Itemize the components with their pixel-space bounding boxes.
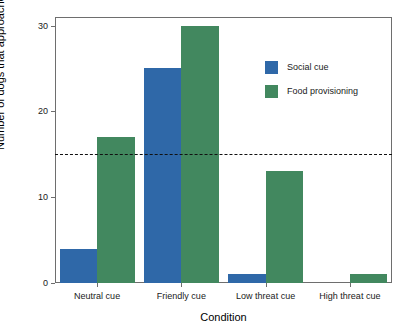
x-tick-mark (97, 283, 98, 287)
x-tick-mark (266, 283, 267, 287)
bar (144, 68, 181, 283)
legend-swatch-icon (265, 61, 278, 74)
y-tick-mark (51, 26, 55, 27)
bar (97, 137, 134, 283)
x-axis-title: Condition (55, 311, 392, 323)
y-tick-label: 30 (38, 21, 48, 31)
y-tick-mark (51, 197, 55, 198)
legend-item[interactable]: Food provisioning (265, 82, 358, 100)
y-tick-label: 0 (43, 278, 48, 288)
threshold-line (55, 154, 392, 155)
y-tick-mark (51, 283, 55, 284)
y-tick-label: 10 (38, 192, 48, 202)
x-tick-label: High threat cue (319, 291, 380, 301)
chart-legend: Social cueFood provisioning (265, 58, 358, 106)
legend-label: Social cue (287, 62, 329, 72)
legend-swatch-icon (265, 85, 278, 98)
legend-label: Food provisioning (287, 86, 358, 96)
bar (266, 171, 303, 283)
plot-area: 0102030Neutral cueFriendly cueLow threat… (55, 17, 392, 283)
x-tick-label: Friendly cue (157, 291, 206, 301)
x-tick-mark (350, 283, 351, 287)
bar (228, 274, 265, 283)
bar (60, 249, 97, 283)
bar-chart-figure: 0102030Neutral cueFriendly cueLow threat… (0, 0, 409, 333)
y-tick-mark (51, 111, 55, 112)
bar (350, 274, 387, 283)
y-axis-title: Number of dogs that approached (0, 0, 6, 150)
x-tick-label: Neutral cue (74, 291, 120, 301)
x-tick-mark (181, 283, 182, 287)
x-tick-label: Low threat cue (236, 291, 295, 301)
legend-item[interactable]: Social cue (265, 58, 358, 76)
y-tick-label: 20 (38, 106, 48, 116)
